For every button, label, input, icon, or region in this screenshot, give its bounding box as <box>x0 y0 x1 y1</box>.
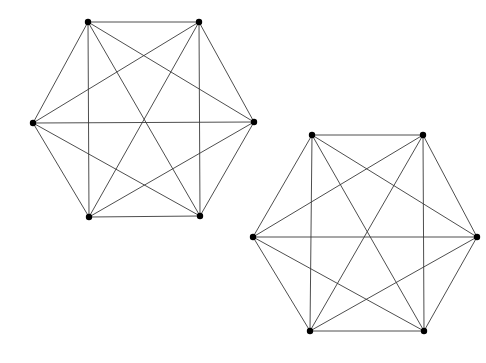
graph-figure-canvas <box>0 0 486 363</box>
graph-vertex-F <box>250 234 256 240</box>
graph-vertex-E <box>86 214 92 220</box>
graph-vertex-C <box>474 234 480 240</box>
graph-vertex-B <box>420 132 426 138</box>
graph-vertex-D <box>197 213 203 219</box>
graph-vertex-A <box>309 132 315 138</box>
graph-vertex-E <box>307 328 313 334</box>
graph-vertex-B <box>196 19 202 25</box>
graph-vertex-F <box>30 120 36 126</box>
figure-background <box>0 0 486 363</box>
graph-vertex-A <box>85 19 91 25</box>
graph-vertex-C <box>251 119 257 125</box>
graph-vertex-D <box>421 328 427 334</box>
